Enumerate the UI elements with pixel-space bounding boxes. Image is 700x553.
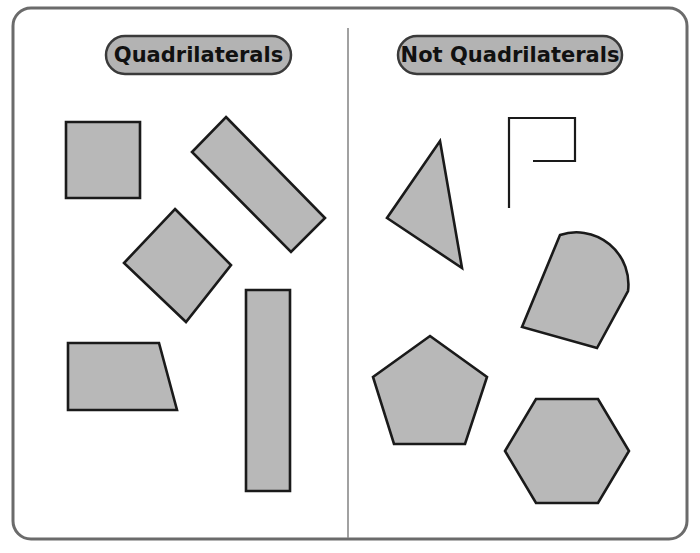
header-label-not-quadrilaterals: Not Quadrilaterals [401, 43, 620, 67]
header-label-quadrilaterals: Quadrilaterals [114, 43, 283, 67]
shape-square[interactable] [66, 122, 140, 198]
poster-canvas: Quadrilaterals Not Quadrilaterals [0, 0, 700, 553]
shape-trapezoid[interactable] [68, 343, 177, 410]
shape-tall-rectangle[interactable] [246, 290, 290, 491]
poster-root: Quadrilaterals Not Quadrilaterals [0, 0, 700, 553]
